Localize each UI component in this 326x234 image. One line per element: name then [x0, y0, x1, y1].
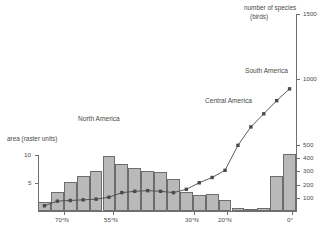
- line-marker: [81, 198, 84, 201]
- line-marker: [185, 188, 188, 191]
- line-marker: [56, 199, 59, 202]
- line-marker: [172, 191, 175, 194]
- line-marker: [107, 196, 110, 199]
- line-marker: [43, 204, 46, 207]
- line-marker: [198, 181, 201, 184]
- line-marker: [159, 190, 162, 193]
- line-marker: [94, 197, 97, 200]
- line-marker: [262, 112, 265, 115]
- line-marker: [69, 199, 72, 202]
- line-marker: [288, 87, 291, 90]
- line-marker: [249, 125, 252, 128]
- line-marker: [120, 191, 123, 194]
- species-line-series: [0, 0, 326, 234]
- line-marker: [236, 144, 239, 147]
- chart-root: number of species (birds) area (raster u…: [0, 0, 326, 234]
- line-marker: [146, 189, 149, 192]
- line-marker: [223, 169, 226, 172]
- line-marker: [210, 176, 213, 179]
- line-marker: [275, 99, 278, 102]
- line-marker: [133, 190, 136, 193]
